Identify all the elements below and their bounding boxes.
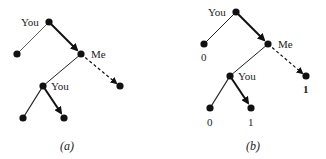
label-a-root-player: You	[21, 16, 39, 28]
node-b-leftleaf	[200, 40, 207, 47]
node-b-me	[264, 40, 271, 47]
node-b-bottomright	[247, 104, 254, 111]
value-b-leftleaf: 0	[201, 51, 207, 63]
edge-a-you-bottomleft	[23, 86, 43, 118]
label-b-me-player: Me	[278, 38, 293, 50]
panel-b: You Me You 0 1 0 1 (b)	[200, 6, 309, 153]
panel-a: You Me You (a)	[13, 16, 123, 153]
node-b-root	[232, 8, 239, 15]
label-b-you-player: You	[238, 70, 256, 82]
node-b-bottomleft	[206, 104, 213, 111]
value-b-bottomleft: 0	[207, 116, 213, 128]
node-a-root	[45, 18, 52, 25]
edge-b-root-me	[236, 12, 264, 40]
node-a-leftleaf	[13, 50, 20, 57]
node-b-you	[226, 72, 233, 79]
value-b-bottomright: 1	[248, 116, 254, 128]
game-tree-figure: You Me You (a) You Me You 0 1 0 1 (b)	[0, 0, 326, 159]
node-b-dashleaf	[302, 72, 309, 79]
caption-b: (b)	[246, 139, 260, 153]
label-a-you-player: You	[51, 80, 69, 92]
node-a-bottomright	[60, 114, 67, 121]
edge-a-root-me	[49, 22, 77, 50]
value-b-dashleaf: 1	[303, 83, 309, 95]
node-a-bottomleft	[19, 114, 26, 121]
node-a-dashleaf	[116, 82, 123, 89]
label-a-me-player: Me	[91, 48, 106, 60]
node-a-me	[77, 50, 84, 57]
node-a-you	[39, 82, 46, 89]
label-b-root-player: You	[208, 6, 226, 18]
edge-b-you-bottomleft	[210, 76, 230, 108]
caption-a: (a)	[60, 139, 74, 153]
